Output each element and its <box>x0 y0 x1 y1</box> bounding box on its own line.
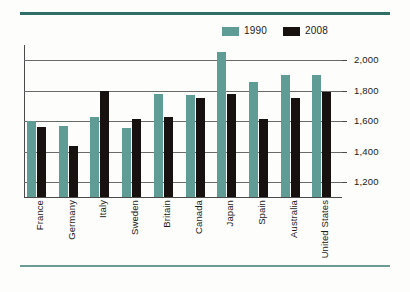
y-axis-tick-label: 1,600 <box>354 115 379 126</box>
bar-britain-2008 <box>164 117 173 197</box>
bar-group <box>120 45 152 197</box>
bar-group <box>279 45 311 197</box>
x-axis-label: Japan <box>224 200 235 226</box>
x-axis-label: Sweden <box>129 200 140 235</box>
x-axis-label: Britain <box>161 200 172 228</box>
bar-canada-1990 <box>186 95 195 197</box>
plot-area: 1,2001,4001,6001,8002,000 <box>24 45 342 198</box>
bar-italy-1990 <box>90 117 99 197</box>
x-axis-label: Australia <box>288 200 299 238</box>
legend-2008: 2008 <box>283 26 328 36</box>
bar-japan-2008 <box>227 94 236 197</box>
y-axis-tick <box>342 91 347 92</box>
bar-britain-1990 <box>154 94 163 197</box>
x-axis-line <box>24 197 342 198</box>
x-axis-labels: FranceGermanyItalySwedenBritainCanadaJap… <box>24 200 342 260</box>
y-axis-tick-label: 1,400 <box>354 146 379 157</box>
bar-group <box>152 45 184 197</box>
bar-united-states-1990 <box>312 75 321 197</box>
bar-group <box>25 45 57 197</box>
x-axis-label: Canada <box>193 200 204 234</box>
y-axis-tick <box>342 60 347 61</box>
legend-swatch-icon <box>222 27 239 36</box>
bar-sweden-2008 <box>132 119 141 197</box>
bar-australia-1990 <box>281 75 290 197</box>
bar-canada-2008 <box>196 98 205 197</box>
x-axis-label: Italy <box>97 200 108 218</box>
x-axis-label: Germany <box>66 200 77 240</box>
y-axis-tick-label: 1,200 <box>354 176 379 187</box>
legend-label: 2008 <box>305 26 328 36</box>
legend-1990: 1990 <box>222 26 267 36</box>
x-axis-label: United States <box>319 200 330 258</box>
bar-group <box>88 45 120 197</box>
bar-italy-2008 <box>100 91 109 197</box>
bar-spain-1990 <box>249 82 258 197</box>
legend-label: 1990 <box>244 26 267 36</box>
bar-group <box>247 45 279 197</box>
legend-swatch-icon <box>283 27 300 36</box>
bar-group <box>184 45 216 197</box>
bar-germany-1990 <box>59 126 68 197</box>
bar-australia-2008 <box>291 98 300 197</box>
bar-group <box>57 45 89 197</box>
x-axis-label: Spain <box>256 200 267 225</box>
bar-group <box>310 45 342 197</box>
bar-sweden-1990 <box>122 128 131 197</box>
bar-france-2008 <box>37 127 46 197</box>
y-axis-tick <box>342 182 347 183</box>
bar-spain-2008 <box>259 119 268 197</box>
y-axis-tick-label: 1,800 <box>354 85 379 96</box>
bottom-divider-rule <box>20 265 390 267</box>
bar-france-1990 <box>27 121 36 197</box>
y-axis-tick-label: 2,000 <box>354 54 379 65</box>
y-axis-tick <box>342 152 347 153</box>
bar-united-states-2008 <box>322 92 331 197</box>
chart-legend: 19902008 <box>222 24 328 38</box>
bar-japan-1990 <box>217 52 226 197</box>
y-axis-tick <box>342 121 347 122</box>
bar-group <box>215 45 247 197</box>
chart-page: 19902008 1,2001,4001,6001,8002,000 Franc… <box>0 0 410 292</box>
bar-series-container <box>25 45 342 197</box>
top-divider-rule <box>20 12 390 15</box>
x-axis-label: France <box>34 200 45 230</box>
bar-germany-2008 <box>69 146 78 197</box>
